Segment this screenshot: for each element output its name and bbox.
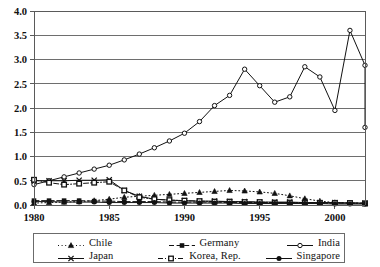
data-point-marker [77, 181, 82, 186]
y-tick-label: 0.0 [14, 200, 27, 211]
y-tick-label: 2.5 [14, 79, 27, 90]
y-tick-label: 1.5 [14, 127, 27, 138]
germany-marker-icon [167, 237, 197, 248]
legend-item-korea-rep[interactable]: Korea, Rep. [156, 250, 263, 261]
x-tick-label: 1985 [99, 212, 120, 223]
legend-label: Japan [86, 250, 113, 261]
data-point-marker [137, 152, 141, 156]
data-point-marker [167, 139, 171, 143]
chile-marker-icon [56, 237, 86, 248]
data-point-marker [152, 146, 156, 150]
data-point-marker [137, 195, 142, 200]
data-point-marker [122, 200, 127, 205]
data-point-marker [77, 200, 82, 205]
data-point-marker [273, 100, 277, 104]
plot-area: 0.00.51.01.52.02.53.03.54.0 198019851990… [0, 0, 380, 228]
data-point-marker [77, 171, 81, 175]
legend-item-chile[interactable]: Chile [38, 237, 167, 248]
data-point-marker [318, 75, 322, 79]
data-point-marker [303, 65, 307, 69]
data-point-marker [257, 83, 261, 87]
data-point-marker [197, 189, 202, 194]
data-point-marker [276, 256, 281, 261]
data-point-marker [122, 194, 127, 199]
y-axis-ticks [30, 11, 34, 205]
line-chart-svg: 0.00.51.01.52.02.53.03.54.0 198019851990… [0, 0, 380, 228]
data-point-marker [287, 193, 292, 198]
india-marker-icon [285, 237, 315, 248]
data-point-marker [227, 93, 231, 97]
legend-label: India [315, 237, 340, 248]
data-point-marker [288, 95, 292, 99]
data-point-marker [47, 180, 52, 185]
x-tick-label: 2000 [324, 212, 345, 223]
legend-item-india[interactable]: India [285, 237, 340, 248]
data-point-marker [197, 119, 201, 123]
data-point-marker [212, 103, 216, 107]
data-point-marker [332, 202, 337, 207]
data-point-marker [92, 200, 97, 205]
data-point-marker [347, 202, 352, 207]
data-point-marker [169, 256, 174, 261]
legend-item-germany[interactable]: Germany [167, 237, 285, 248]
data-point-marker [179, 243, 184, 248]
y-axis-labels: 0.00.51.01.52.02.53.03.54.0 [14, 6, 27, 211]
data-point-marker [212, 189, 217, 194]
legend-row: JapanKorea, Rep.Singapore [38, 249, 340, 262]
legend-label: Chile [86, 237, 112, 248]
legend-label: Singapore [294, 250, 340, 261]
data-point-marker [107, 163, 111, 167]
data-point-marker [298, 243, 302, 247]
korea-rep-marker-icon [156, 250, 186, 261]
data-point-marker [107, 200, 112, 205]
legend-item-singapore[interactable]: Singapore [264, 250, 340, 261]
chart-screenshot: 0.00.51.01.52.02.53.03.54.0 198019851990… [0, 0, 380, 267]
data-point-marker [348, 28, 352, 32]
data-point-marker [62, 182, 67, 187]
x-axis-labels: 19801985199019952000 [24, 212, 346, 223]
x-tick-label: 1980 [24, 212, 45, 223]
data-point-marker [92, 167, 96, 171]
legend-item-japan[interactable]: Japan [38, 250, 156, 261]
data-point-marker [107, 179, 112, 184]
japan-marker-icon [56, 250, 86, 261]
data-point-marker [92, 180, 97, 185]
legend-label: Germany [197, 237, 240, 248]
data-point-marker [122, 188, 127, 193]
data-point-marker [122, 158, 126, 162]
data-point-marker [333, 108, 337, 112]
x-tick-label: 1990 [174, 212, 195, 223]
y-tick-label: 0.5 [14, 176, 27, 187]
data-point-marker [242, 67, 246, 71]
data-point-marker [47, 199, 52, 204]
y-tick-label: 3.0 [14, 54, 27, 65]
data-point-marker [152, 200, 157, 205]
chart-legend: ChileGermanyIndiaJapanKorea, Rep.Singapo… [33, 233, 345, 263]
y-tick-label: 2.0 [14, 103, 27, 114]
x-tick-label: 1995 [249, 212, 270, 223]
data-series-group [31, 28, 367, 206]
data-point-marker [62, 200, 67, 205]
data-point-marker [182, 190, 187, 195]
y-tick-label: 4.0 [14, 6, 27, 17]
y-tick-label: 1.0 [14, 151, 27, 162]
data-point-marker [182, 131, 186, 135]
singapore-marker-icon [264, 250, 294, 261]
data-point-marker [137, 200, 142, 205]
gridlines-group [34, 11, 365, 181]
legend-label: Korea, Rep. [186, 250, 241, 261]
legend-row: ChileGermanyIndia [38, 236, 340, 249]
y-tick-label: 3.5 [14, 30, 27, 41]
data-point-marker [272, 190, 277, 195]
